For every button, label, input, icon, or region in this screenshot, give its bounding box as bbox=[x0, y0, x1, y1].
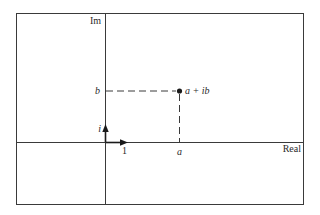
real-axis-label: Real bbox=[283, 143, 302, 154]
one-unit-label: 1 bbox=[122, 145, 127, 156]
imaginary-unit-arrow-icon bbox=[102, 124, 108, 142]
complex-plane-diagram: Im Real b a a + ib i 1 bbox=[0, 0, 320, 215]
diagram-frame bbox=[17, 14, 304, 205]
complex-point-marker bbox=[177, 88, 182, 93]
point-label: a + ib bbox=[185, 85, 210, 96]
i-unit-label: i bbox=[98, 123, 101, 134]
b-label: b bbox=[95, 85, 100, 96]
a-label: a bbox=[177, 146, 182, 157]
im-axis-label: Im bbox=[90, 15, 101, 26]
